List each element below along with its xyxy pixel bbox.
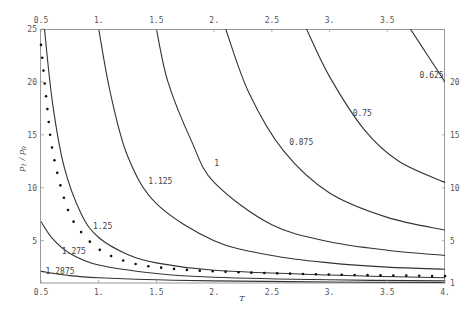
x-tick-label: 4. <box>440 288 450 297</box>
dot-marker <box>328 273 331 276</box>
y-right-tick-label: 1 <box>450 279 455 288</box>
dot-marker <box>53 159 56 162</box>
curve-label: 0.625 <box>420 71 444 80</box>
dot-marker <box>302 273 305 276</box>
x-top-tick-label: 2.5 <box>265 16 280 25</box>
dot-marker <box>72 220 75 223</box>
y-right-tick-label: 15 <box>450 131 460 140</box>
y-right-tick-label: 5 <box>450 237 455 246</box>
dot-marker <box>98 249 101 252</box>
x-tick-label: 3. <box>325 288 335 297</box>
curve-label: 1.25 <box>93 222 112 231</box>
dot-marker <box>186 269 189 272</box>
dot-marker <box>340 273 343 276</box>
y-right-tick-label: 20 <box>450 78 460 87</box>
x-top-tick-label: 1.5 <box>149 16 164 25</box>
dot-marker <box>40 44 43 47</box>
dot-marker <box>173 268 176 271</box>
dot-marker <box>122 259 125 262</box>
x-top-tick-label: 2. <box>209 16 219 25</box>
y-tick-label: 10 <box>27 184 37 193</box>
dot-marker <box>43 82 46 85</box>
dot-marker <box>392 274 395 277</box>
dot-marker <box>160 266 163 269</box>
curve-label: 1.2875 <box>46 267 75 276</box>
y-axis-label: p1 / p0 <box>17 146 27 172</box>
dot-marker <box>237 271 240 274</box>
y-tick-label: 20 <box>27 78 37 87</box>
dot-marker <box>49 133 52 136</box>
x-top-tick-label: 0.5 <box>34 16 49 25</box>
dot-marker <box>46 108 49 111</box>
x-tick-label: 1.5 <box>149 288 164 297</box>
dot-marker <box>110 255 113 258</box>
dot-marker <box>431 275 434 278</box>
plot-frame <box>41 30 445 284</box>
dot-marker <box>366 274 369 277</box>
dot-marker <box>51 146 54 149</box>
dot-marker <box>405 274 408 277</box>
dot-marker <box>67 209 70 212</box>
x-tick-label: 1. <box>94 288 104 297</box>
dot-marker <box>42 69 45 72</box>
dot-marker <box>315 273 318 276</box>
dot-marker <box>41 56 44 59</box>
curve-label: 0.875 <box>289 138 313 147</box>
dot-marker <box>56 172 59 175</box>
curve-0-75 <box>306 29 445 182</box>
curve-1-25 <box>44 29 445 278</box>
y-right-tick-label: 10 <box>450 184 460 193</box>
chart: 0.51.1.52.2.53.3.54.0.51.1.52.2.53.3.551… <box>0 0 476 314</box>
dot-marker <box>147 265 150 268</box>
dot-marker <box>63 196 66 199</box>
curve-label: 1.275 <box>62 247 86 256</box>
y-tick-label: 15 <box>27 131 37 140</box>
dot-marker <box>134 263 137 266</box>
dot-marker <box>353 274 356 277</box>
curve-label: 1.125 <box>148 177 172 186</box>
dot-marker <box>263 272 266 275</box>
x-top-tick-label: 3.5 <box>380 16 395 25</box>
curve-label: 1 <box>214 159 219 168</box>
dot-marker <box>276 272 279 275</box>
dot-marker <box>250 271 253 274</box>
curve-0-875 <box>226 29 445 230</box>
dot-marker <box>80 231 83 234</box>
x-axis-label: T <box>239 294 245 303</box>
dot-marker <box>211 270 214 273</box>
y-tick-label: 5 <box>32 237 37 246</box>
x-tick-label: 2. <box>209 288 219 297</box>
curve-labels: 0.6250.750.87511.1251.251.2751.2875 <box>46 71 444 276</box>
dot-marker <box>224 271 227 274</box>
x-top-tick-label: 3. <box>325 16 335 25</box>
curves <box>41 29 445 282</box>
x-top-tick-label: 1. <box>94 16 104 25</box>
x-tick-label: 2.5 <box>265 288 280 297</box>
x-tick-label: 0.5 <box>34 288 49 297</box>
dot-marker <box>59 184 62 187</box>
dot-marker <box>289 272 292 275</box>
dot-marker <box>47 121 50 124</box>
dot-marker <box>45 95 48 98</box>
dot-marker <box>198 269 201 272</box>
dot-marker <box>418 275 421 278</box>
curve-1-125 <box>99 29 445 269</box>
dot-marker <box>89 240 92 243</box>
x-tick-label: 3.5 <box>380 288 395 297</box>
dot-marker <box>379 274 382 277</box>
curve-label: 0.75 <box>353 109 372 118</box>
axis-ticks: 0.51.1.52.2.53.3.54.0.51.1.52.2.53.3.551… <box>27 16 459 297</box>
y-tick-label: 25 <box>27 25 37 34</box>
dot-marker <box>444 275 447 278</box>
